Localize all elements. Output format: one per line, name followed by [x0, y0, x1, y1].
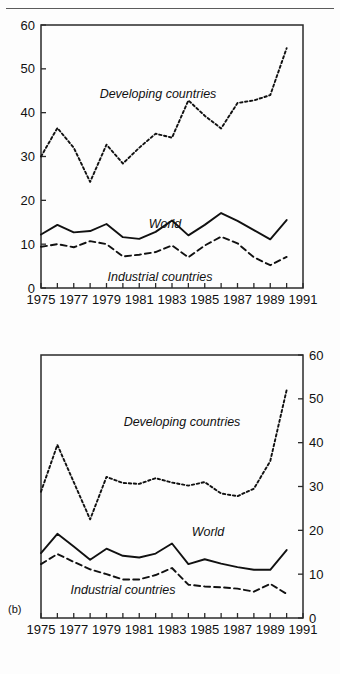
- series-label-industrial: Industrial countries: [108, 270, 213, 284]
- y-axis-tick-label: 30: [21, 149, 35, 164]
- y-axis-tick-label: 50: [21, 61, 35, 76]
- y-axis-tick-label: 60: [21, 18, 35, 33]
- x-axis-tick-label: 1979: [92, 622, 121, 637]
- x-axis-tick-label: 1985: [190, 622, 219, 637]
- y-axis-tick-label: 20: [21, 193, 35, 208]
- series-label-developing: Developing countries: [100, 87, 217, 101]
- x-axis-tick-label: 1983: [158, 622, 187, 637]
- series-label-developing: Developing countries: [124, 415, 241, 429]
- x-axis-tick-label: 1977: [59, 292, 88, 307]
- figure-page: 0102030405060197519771979198119831985198…: [0, 0, 340, 674]
- series-label-world: World: [192, 525, 226, 539]
- y-axis-tick-label: 60: [309, 348, 323, 363]
- panel-b-label: (b): [8, 603, 21, 615]
- chart-b-svg: 0102030405060197519771979198119831985198…: [0, 346, 340, 666]
- x-axis-tick-label: 1989: [256, 292, 285, 307]
- x-axis-tick-label: 1981: [125, 622, 154, 637]
- x-axis-tick-label: 1991: [289, 622, 318, 637]
- y-axis-tick-label: 10: [21, 237, 35, 252]
- chart-panel-a: 0102030405060197519771979198119831985198…: [0, 16, 340, 332]
- x-axis-tick-label: 1983: [158, 292, 187, 307]
- y-axis-tick-label: 50: [309, 391, 323, 406]
- chart-a-svg: 0102030405060197519771979198119831985198…: [0, 16, 340, 332]
- header-rule: [6, 8, 334, 9]
- y-axis-tick-label: 20: [309, 523, 323, 538]
- x-axis-tick-label: 1991: [289, 292, 318, 307]
- series-line: [41, 48, 287, 182]
- series-line: [41, 390, 287, 519]
- x-axis-tick-label: 1981: [125, 292, 154, 307]
- x-axis-tick-label: 1987: [223, 622, 252, 637]
- y-axis-tick-label: 30: [309, 479, 323, 494]
- x-axis-tick-label: 1987: [223, 292, 252, 307]
- x-axis-tick-label: 1975: [27, 622, 56, 637]
- x-axis-tick-label: 1985: [190, 292, 219, 307]
- series-label-world: World: [149, 217, 183, 231]
- x-axis-tick-label: 1977: [59, 622, 88, 637]
- plot-frame: [41, 25, 303, 288]
- series-line: [41, 237, 287, 265]
- y-axis-tick-label: 40: [21, 105, 35, 120]
- x-axis-tick-label: 1989: [256, 622, 285, 637]
- plot-frame: [41, 355, 303, 618]
- chart-panel-b: 0102030405060197519771979198119831985198…: [0, 346, 340, 666]
- x-axis-tick-label: 1975: [27, 292, 56, 307]
- y-axis-tick-label: 10: [309, 567, 323, 582]
- x-axis-tick-label: 1979: [92, 292, 121, 307]
- series-label-industrial: Industrial countries: [71, 583, 176, 597]
- y-axis-tick-label: 40: [309, 435, 323, 450]
